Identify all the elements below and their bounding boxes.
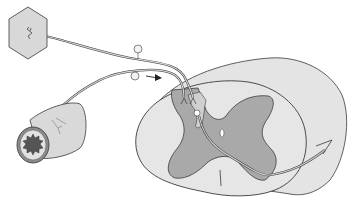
blood-vessel-cross-section: [17, 103, 86, 163]
spinal-cord-diagram: [0, 0, 355, 199]
neuron-cell-body: [194, 110, 200, 116]
somatic-afferent-fiber: [32, 33, 193, 98]
central-canal: [220, 129, 224, 137]
ganglion-cell-visceral: [131, 72, 139, 80]
direction-arrow-icon: [146, 74, 162, 81]
ganglion-cell-somatic: [134, 45, 142, 53]
skin-receptor: [9, 7, 47, 59]
